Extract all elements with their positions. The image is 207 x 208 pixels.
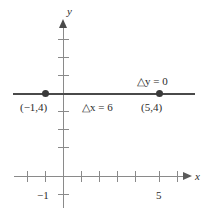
x-tick-6 [177,171,178,182]
y-tick-neg1 [58,194,69,195]
y-axis-line [63,22,64,208]
graph-figure: y x −1 5 △y = 0 △x = 6 (−1,4) (5,4) [0,0,207,208]
x-tick-1 [81,171,82,182]
y-tick-7 [58,39,69,40]
delta-y-annotation: △y = 0 [137,76,168,87]
x-axis-arrow-icon [183,172,192,180]
x-tick-label-5: 5 [156,190,162,201]
x-tick-5 [159,171,160,182]
point-right-label: (5,4) [141,102,162,113]
plot-line-y-equals-4 [13,93,195,95]
x-tick-label-neg1: −1 [37,190,49,201]
data-point-right [156,90,163,97]
x-tick-4 [135,171,136,182]
x-axis-label: x [195,171,200,182]
y-axis-label: y [67,6,72,17]
x-tick-2 [99,171,100,182]
y-axis-arrow-icon [59,19,67,28]
data-point-left [42,90,49,97]
delta-x-annotation: △x = 6 [82,102,113,113]
y-tick-1 [58,147,69,148]
x-tick-neg2 [27,171,28,182]
y-tick-2 [58,129,69,130]
x-tick-neg1 [45,171,46,182]
y-tick-3 [58,111,69,112]
point-left-label: (−1,4) [20,102,47,113]
y-tick-6 [58,57,69,58]
y-tick-5 [58,75,69,76]
x-axis-line [14,176,186,177]
x-tick-3 [117,171,118,182]
